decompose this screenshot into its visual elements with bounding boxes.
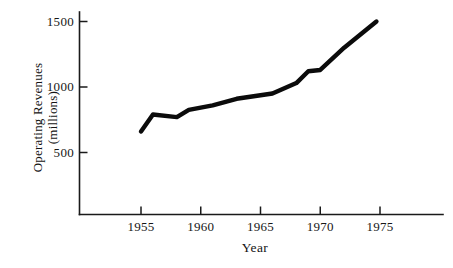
axes-group — [80, 12, 444, 215]
x-tick-label: 1955 — [127, 219, 154, 235]
chart-figure: 15001000500 19551960196519701975 Year Op… — [0, 0, 453, 268]
revenue-line-series — [141, 22, 376, 132]
x-tick-marks — [141, 207, 380, 215]
y-axis-title: Operating Revenues (millions) — [31, 44, 60, 192]
x-tick-label: 1960 — [187, 219, 214, 235]
x-tick-label: 1970 — [307, 219, 334, 235]
x-axis-title: Year — [242, 240, 268, 256]
x-tick-label: 1965 — [247, 219, 274, 235]
y-tick-marks — [80, 22, 88, 153]
x-tick-label: 1975 — [366, 219, 393, 235]
y-tick-label: 1500 — [24, 14, 74, 30]
y-axis-title-line2: (millions) — [46, 44, 61, 192]
y-axis-title-line1: Operating Revenues — [30, 63, 45, 172]
